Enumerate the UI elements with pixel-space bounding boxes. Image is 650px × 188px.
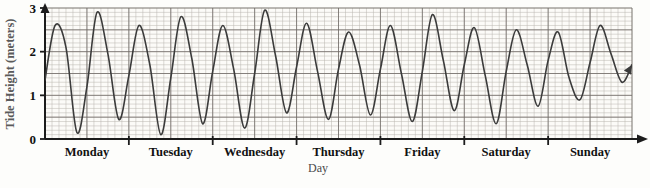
y-tick-label: 0 xyxy=(30,132,37,147)
y-axis-title: Tide Height (meters) xyxy=(3,19,17,130)
day-label-wednesday: Wednesday xyxy=(224,145,286,159)
day-label-monday: Monday xyxy=(65,145,110,159)
tide-height-chart: 0123 MondayTuesdayWednesdayThursdayFrida… xyxy=(0,0,650,188)
day-label-saturday: Saturday xyxy=(482,145,532,159)
day-label-sunday: Sunday xyxy=(570,145,611,159)
day-label-tuesday: Tuesday xyxy=(149,145,194,159)
day-label-thursday: Thursday xyxy=(312,145,365,159)
day-label-friday: Friday xyxy=(404,145,441,159)
y-tick-label: 3 xyxy=(30,1,37,16)
y-tick-label: 2 xyxy=(30,44,37,59)
x-axis-title: Day xyxy=(308,161,328,175)
y-tick-label: 1 xyxy=(30,88,37,103)
chart-canvas: 0123 MondayTuesdayWednesdayThursdayFrida… xyxy=(0,0,650,188)
